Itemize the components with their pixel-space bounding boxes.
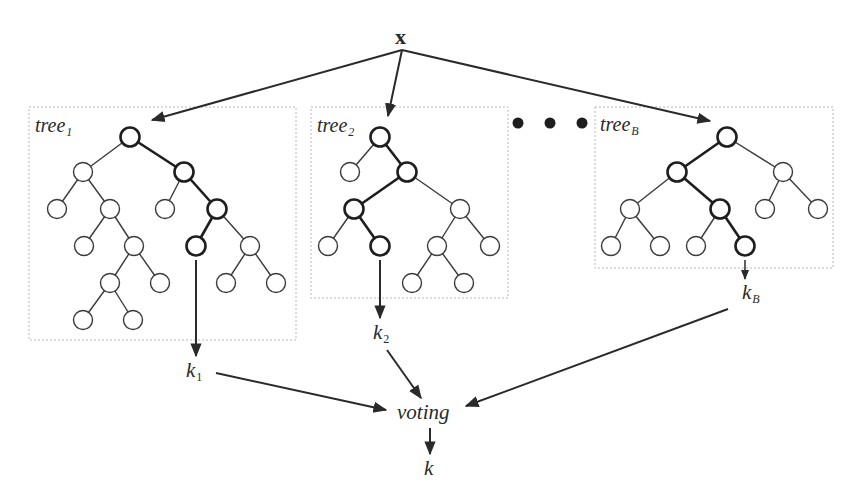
tree1-path-node xyxy=(208,200,227,219)
k1-text: k xyxy=(186,358,195,382)
tree1-node xyxy=(101,274,120,293)
final-output-label: k xyxy=(424,458,433,479)
tree1-title: tree1 xyxy=(35,115,72,135)
k2-text: k xyxy=(373,320,382,344)
treeB-node xyxy=(756,200,775,219)
treeB-node xyxy=(774,163,793,182)
tree1-node xyxy=(101,200,120,219)
tree2-node xyxy=(341,163,360,182)
tree2-output-label: k2 xyxy=(373,322,389,343)
tree-boxes xyxy=(29,107,833,340)
kB-text: k xyxy=(742,280,751,304)
tree1-node xyxy=(217,274,236,293)
k2-sub: 2 xyxy=(383,332,389,346)
tree1-node xyxy=(74,163,93,182)
arrow-x-to-tree2 xyxy=(388,50,402,116)
treeB-node xyxy=(809,200,828,219)
treeB-output-label: kB xyxy=(742,282,760,303)
tree2-node xyxy=(481,237,500,256)
treeB-path-node xyxy=(736,237,755,256)
treeB-node xyxy=(621,200,640,219)
tree2-title: tree2 xyxy=(317,115,354,135)
tree1-node xyxy=(48,200,67,219)
tree1-path-node xyxy=(175,163,194,182)
treeB-node xyxy=(602,237,621,256)
treeB-path-node xyxy=(711,200,730,219)
tree1-node xyxy=(267,274,286,293)
kB-sub: B xyxy=(752,292,759,306)
voting-label: voting xyxy=(397,402,450,423)
treeB-path-node xyxy=(718,128,737,147)
tree1-node xyxy=(156,200,175,219)
tree1-node xyxy=(74,311,93,330)
treeB-title-sub: B xyxy=(631,124,638,138)
tree2-node xyxy=(319,237,338,256)
treeB-path-node xyxy=(668,163,687,182)
tree2-path-node xyxy=(345,200,364,219)
arrow-k2-to-voting xyxy=(387,350,421,398)
tree2-node xyxy=(403,274,422,293)
tree2-node xyxy=(428,237,447,256)
tree1-path-node xyxy=(187,237,206,256)
arrow-x-to-treeB xyxy=(402,50,710,121)
tree2-path-node xyxy=(371,128,390,147)
treeB-node xyxy=(687,237,706,256)
tree1-node xyxy=(75,237,94,256)
arrow-k1-to-voting xyxy=(216,373,386,410)
ellipsis-dots xyxy=(513,118,588,129)
tree2-title-sub: 2 xyxy=(348,125,354,139)
tree2-path-node xyxy=(371,237,390,256)
arrow-kB-to-voting xyxy=(466,309,728,406)
tree1-node xyxy=(241,237,260,256)
tree1-title-text: tree xyxy=(35,114,65,136)
tree-edges xyxy=(57,137,818,320)
tree2-node xyxy=(455,274,474,293)
tree-nodes xyxy=(48,128,828,330)
tree2-path-node xyxy=(398,163,417,182)
tree1-title-sub: 1 xyxy=(66,125,72,139)
k1-sub: 1 xyxy=(196,370,202,384)
tree2-node xyxy=(451,200,470,219)
treeB-title: treeB xyxy=(600,114,639,134)
treeB-node xyxy=(651,237,670,256)
input-x-label: x xyxy=(395,26,406,48)
treeB-title-text: tree xyxy=(600,113,630,135)
arrow-x-to-tree1 xyxy=(152,50,402,120)
tree1-node xyxy=(124,311,143,330)
tree2-title-text: tree xyxy=(317,114,347,136)
tree1-node xyxy=(151,274,170,293)
tree1-output-label: k1 xyxy=(186,360,202,381)
tree1-path-node xyxy=(121,128,140,147)
tree1-node xyxy=(125,237,144,256)
tree1-box xyxy=(29,107,296,340)
